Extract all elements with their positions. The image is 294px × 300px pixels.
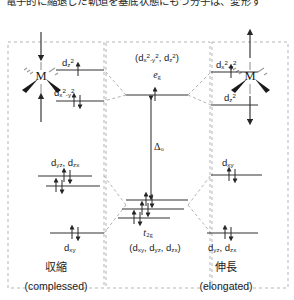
left-distortion-jp: 収縮 bbox=[45, 262, 67, 273]
label-left-dz2: dz2 bbox=[62, 58, 74, 68]
left-metal-label: M bbox=[35, 70, 46, 83]
right-distortion-en: (elongated) bbox=[199, 281, 252, 292]
label-center-t2g-set: (dxy, dyz, dzx) bbox=[129, 243, 180, 253]
right-distortion-jp: 伸長 bbox=[215, 262, 237, 273]
label-right-dxy: dxy bbox=[222, 158, 233, 168]
electron-spin-arrows bbox=[56, 64, 235, 239]
label-center-eg-symmetry: eg bbox=[153, 70, 161, 81]
label-right-dz2: dz2 bbox=[224, 93, 236, 103]
label-right-dyz-dzx: dyz, dzx bbox=[208, 243, 236, 253]
label-left-dxy: dxy bbox=[64, 243, 75, 253]
right-metal-label: M bbox=[244, 70, 255, 83]
left-distortion-en: (complessed) bbox=[24, 281, 87, 292]
label-center-t2g-symmetry: t2g bbox=[143, 228, 152, 239]
label-left-dyz-dzx: dyz, dzx bbox=[51, 158, 79, 168]
label-delta-o: Δo bbox=[154, 142, 164, 153]
label-center-eg-set: (dx2-y2, dz2) bbox=[135, 53, 179, 63]
orbital-diagram-canvas bbox=[0, 0, 294, 300]
label-right-dx2y2: dx2-y2 bbox=[216, 60, 236, 70]
label-left-dx2y2: dx2-y2 bbox=[54, 88, 74, 98]
